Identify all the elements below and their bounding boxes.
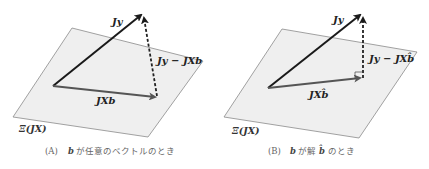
caption-marker: (B) [268, 146, 281, 156]
label-projection: JXb̂ [307, 88, 328, 100]
caption-marker: (A) [45, 146, 58, 156]
panel-a: Jy Jy − JXb JXb Ξ(JX) (A) b が任意のベクトルのとき [13, 15, 203, 156]
label-residual: Jy − JXb̂ [367, 52, 414, 64]
subspace-plane [13, 28, 203, 137]
label-projection: JXb [94, 95, 115, 106]
label-plane: Ξ(JX) [18, 123, 47, 134]
label-jy: Jy [331, 14, 345, 25]
caption-var-hat: b̂ [319, 144, 325, 156]
caption-text-mid: が解 [298, 146, 316, 156]
caption-text-end: のとき [328, 146, 355, 156]
label-plane: Ξ(JX) [231, 125, 260, 136]
least-squares-diagram: Jy Jy − JXb JXb Ξ(JX) (A) b が任意のベクトルのとき … [0, 0, 429, 169]
caption-text: が任意のベクトルのとき [76, 146, 175, 156]
label-residual: Jy − JXb [155, 55, 202, 66]
caption-a: (A) b が任意のベクトルのとき [45, 146, 175, 156]
caption-b: (B) b が解 b̂ のとき [268, 144, 355, 156]
caption-var: b [290, 146, 296, 156]
caption-var: b [68, 146, 74, 156]
panel-b: Jy Jy − JXb̂ JXb̂ Ξ(JX) (B) b が解 b̂ のとき [224, 14, 417, 156]
label-jy: Jy [110, 16, 124, 27]
